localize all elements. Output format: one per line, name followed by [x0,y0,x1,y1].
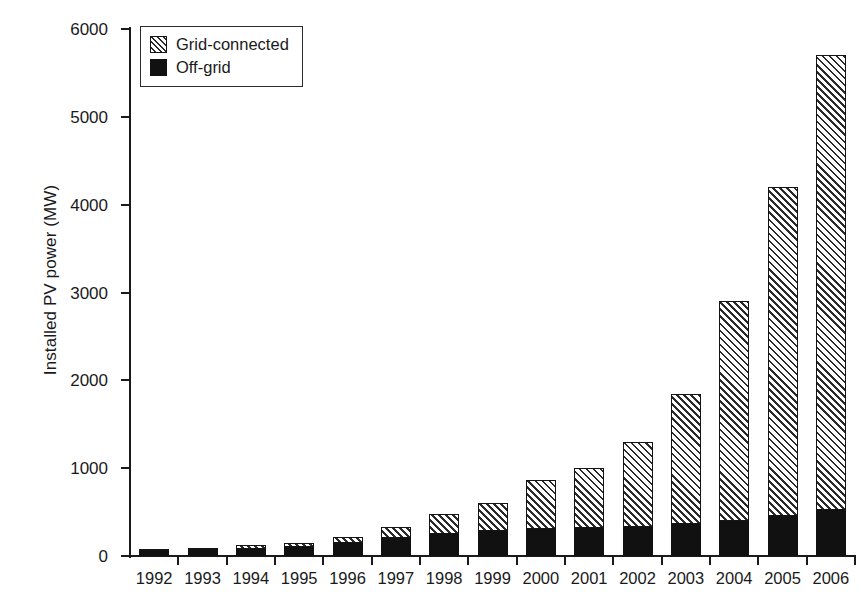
y-tick-label: 5000 [0,108,108,125]
bar-group [381,527,411,556]
bar-group [284,543,314,556]
bar-segment-off-grid [671,524,701,556]
x-tick-mark [516,556,518,565]
bar-segment-off-grid [478,531,508,556]
y-tick-mark [121,379,129,381]
bar-group [574,468,604,556]
bar-segment-grid-connected [768,187,798,516]
bar-group [816,55,846,556]
y-tick-label: 2000 [0,372,108,389]
y-tick-label: 0 [0,548,108,565]
bar-group [478,503,508,556]
bar-group [429,514,459,556]
bar-group [139,549,169,556]
x-tick-mark [226,556,228,565]
bar-segment-off-grid [526,529,556,556]
bar-segment-grid-connected [719,301,749,521]
bar-segment-grid-connected [574,468,604,528]
bar-segment-off-grid [768,516,798,556]
bar-group [333,537,363,556]
bar-group [623,442,653,556]
legend-box: Grid-connected Off-grid [140,26,303,87]
bar-segment-grid-connected [816,55,846,510]
y-tick-mark [121,467,129,469]
x-tick-label: 2006 [801,570,861,587]
x-tick-mark [661,556,663,565]
legend-item-off-grid: Off-grid [150,56,289,79]
solid-swatch-icon [150,59,167,76]
bar-group [526,480,556,556]
x-tick-mark [371,556,373,565]
legend-label-off-grid: Off-grid [176,59,231,76]
bar-segment-off-grid [816,510,846,556]
bar-group [768,187,798,556]
y-tick-label: 3000 [0,284,108,301]
bar-group [719,301,749,556]
x-tick-mark [612,556,614,565]
y-tick-mark [121,116,129,118]
y-tick-mark [121,204,129,206]
bar-segment-grid-connected [623,442,653,527]
y-tick-label: 4000 [0,196,108,213]
bar-segment-off-grid [719,521,749,556]
x-tick-mark [806,556,808,565]
bar-segment-off-grid [236,549,266,556]
legend-label-grid-connected: Grid-connected [176,36,289,53]
x-tick-mark [757,556,759,565]
bar-segment-off-grid [188,550,218,556]
y-tick-mark [121,292,129,294]
bar-group [188,548,218,556]
x-tick-mark [564,556,566,565]
bar-segment-off-grid [139,551,169,556]
y-tick-label: 6000 [0,21,108,38]
bar-segment-grid-connected [526,480,556,529]
bar-segment-grid-connected [381,527,411,538]
bar-chart-figure: Installed PV power (MW) 0100020003000400… [0,0,862,608]
bar-segment-off-grid [429,534,459,556]
x-tick-mark [177,556,179,565]
y-tick-mark [121,28,129,30]
bar-segment-off-grid [284,547,314,556]
bar-group [236,545,266,556]
y-tick-label: 1000 [0,460,108,477]
bar-segment-grid-connected [671,394,701,525]
x-tick-mark [419,556,421,565]
plot-area [130,29,855,556]
bar-segment-off-grid [333,543,363,556]
bar-group [671,394,701,556]
bar-segment-off-grid [574,528,604,556]
bar-segment-off-grid [381,538,411,556]
x-tick-mark [467,556,469,565]
hatch-swatch-icon [150,36,167,53]
bar-segment-grid-connected [429,514,459,534]
x-tick-mark [709,556,711,565]
y-tick-mark [121,555,129,557]
bar-segment-grid-connected [478,503,508,531]
legend-item-grid-connected: Grid-connected [150,33,289,56]
bar-segment-off-grid [623,527,653,556]
x-tick-mark [854,556,856,565]
x-tick-mark [274,556,276,565]
x-tick-mark [322,556,324,565]
